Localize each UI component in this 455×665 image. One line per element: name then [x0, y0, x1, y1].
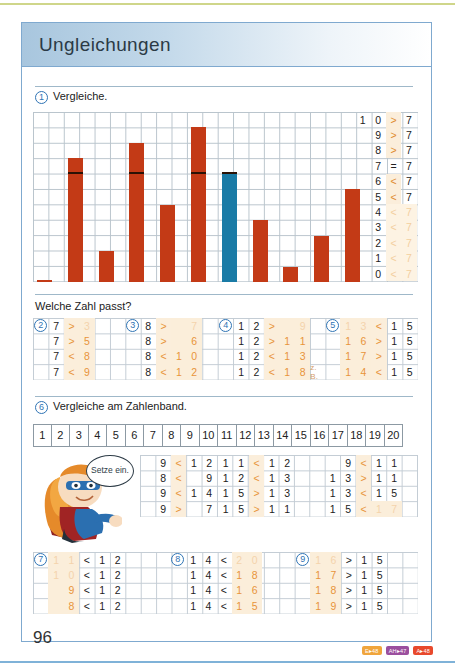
- equation-sign[interactable]: <: [171, 455, 186, 470]
- equation-sign[interactable]: <: [216, 583, 231, 598]
- answer-cell[interactable]: 1: [340, 349, 355, 364]
- equation-sign[interactable]: <: [371, 364, 386, 379]
- equation-sign[interactable]: <: [264, 364, 279, 379]
- answer-cell[interactable]: 1: [232, 598, 247, 613]
- answer-cell[interactable]: 1: [280, 333, 295, 348]
- answer-cell[interactable]: 6: [356, 333, 371, 348]
- comparison-sign[interactable]: <: [386, 174, 401, 189]
- answer-cell[interactable]: 8: [247, 567, 262, 582]
- answer-cell[interactable]: 1: [340, 318, 355, 333]
- answer-cell[interactable]: 1: [310, 583, 325, 598]
- equation-sign[interactable]: >: [341, 567, 356, 582]
- answer-cell[interactable]: 1: [310, 552, 325, 567]
- equation-sign[interactable]: >: [264, 318, 279, 333]
- equation-sign[interactable]: <: [64, 364, 79, 379]
- answer-cell[interactable]: 5: [247, 598, 262, 613]
- answer-cell[interactable]: 9: [326, 598, 341, 613]
- answer-cell[interactable]: 4: [356, 364, 371, 379]
- answer-cell[interactable]: 6: [187, 333, 202, 348]
- equation-sign[interactable]: <: [216, 598, 231, 613]
- comparison-sign[interactable]: >: [386, 112, 401, 127]
- equation-sign[interactable]: >: [371, 349, 386, 364]
- equation-sign[interactable]: <: [79, 552, 94, 567]
- answer-cell[interactable]: 1: [171, 364, 186, 379]
- answer-cell[interactable]: 1: [280, 349, 295, 364]
- equation-sign[interactable]: <: [371, 318, 386, 333]
- answer-cell[interactable]: 0: [64, 567, 79, 582]
- equation-sign[interactable]: <: [79, 583, 94, 598]
- equation-sign[interactable]: <: [156, 364, 171, 379]
- answer-cell[interactable]: 1: [280, 364, 295, 379]
- answer-cell[interactable]: 3: [79, 318, 94, 333]
- answer-cell[interactable]: 0: [187, 349, 202, 364]
- answer-cell[interactable]: [48, 583, 63, 598]
- answer-cell[interactable]: 1: [371, 501, 386, 516]
- equation-sign[interactable]: <: [264, 349, 279, 364]
- equation-sign[interactable]: <: [249, 455, 264, 470]
- equation-sign[interactable]: >: [171, 501, 186, 516]
- equation-sign[interactable]: >: [156, 318, 171, 333]
- equation-sign[interactable]: <: [79, 598, 94, 613]
- equation-sign[interactable]: <: [171, 470, 186, 485]
- equation-sign[interactable]: >: [64, 333, 79, 348]
- equation-sign[interactable]: >: [371, 333, 386, 348]
- answer-cell[interactable]: 1: [232, 567, 247, 582]
- answer-cell[interactable]: 2: [232, 552, 247, 567]
- answer-cell[interactable]: 7: [187, 318, 202, 333]
- equation-sign[interactable]: <: [171, 486, 186, 501]
- equation-sign[interactable]: >: [341, 598, 356, 613]
- answer-cell[interactable]: 1: [232, 583, 247, 598]
- comparison-sign[interactable]: <: [386, 189, 401, 204]
- answer-cell[interactable]: 1: [310, 567, 325, 582]
- answer-cell[interactable]: 5: [79, 333, 94, 348]
- answer-cell[interactable]: 8: [295, 364, 310, 379]
- answer-cell[interactable]: 1: [310, 598, 325, 613]
- answer-cell[interactable]: 2: [187, 364, 202, 379]
- answer-cell[interactable]: 1: [340, 333, 355, 348]
- answer-cell[interactable]: 7: [356, 349, 371, 364]
- answer-cell[interactable]: 1: [48, 567, 63, 582]
- comparison-sign[interactable]: <: [386, 235, 401, 250]
- equation-sign[interactable]: >: [264, 333, 279, 348]
- answer-cell[interactable]: 9: [295, 318, 310, 333]
- answer-cell[interactable]: 1: [340, 364, 355, 379]
- answer-cell[interactable]: 6: [326, 552, 341, 567]
- equation-sign[interactable]: >: [341, 552, 356, 567]
- answer-cell[interactable]: 9: [64, 583, 79, 598]
- equation-sign[interactable]: >: [156, 333, 171, 348]
- equation-sign[interactable]: >: [249, 486, 264, 501]
- comparison-sign[interactable]: <: [386, 204, 401, 219]
- answer-cell[interactable]: 8: [326, 583, 341, 598]
- comparison-sign[interactable]: <: [386, 266, 401, 281]
- comparison-sign[interactable]: >: [386, 143, 401, 158]
- comparison-sign[interactable]: =: [386, 158, 401, 173]
- equation-sign[interactable]: >: [64, 318, 79, 333]
- equation-sign[interactable]: <: [356, 455, 371, 470]
- equation-sign[interactable]: >: [356, 470, 371, 485]
- equation-sign[interactable]: <: [64, 349, 79, 364]
- equation-sign[interactable]: <: [356, 486, 371, 501]
- answer-cell[interactable]: 0: [247, 552, 262, 567]
- answer-cell[interactable]: 7: [326, 567, 341, 582]
- comparison-sign[interactable]: <: [386, 220, 401, 235]
- equation-sign[interactable]: <: [216, 567, 231, 582]
- answer-cell[interactable]: 6: [247, 583, 262, 598]
- equation-sign[interactable]: <: [216, 552, 231, 567]
- answer-cell[interactable]: 1: [64, 552, 79, 567]
- answer-cell[interactable]: 3: [356, 318, 371, 333]
- answer-cell[interactable]: [280, 318, 295, 333]
- answer-cell[interactable]: 8: [79, 349, 94, 364]
- answer-cell[interactable]: [48, 598, 63, 613]
- answer-cell[interactable]: 7: [387, 501, 402, 516]
- answer-cell[interactable]: 8: [64, 598, 79, 613]
- answer-cell[interactable]: [171, 318, 186, 333]
- answer-cell[interactable]: 1: [48, 552, 63, 567]
- equation-sign[interactable]: <: [156, 349, 171, 364]
- equation-sign[interactable]: >: [341, 583, 356, 598]
- comparison-sign[interactable]: >: [386, 127, 401, 142]
- equation-sign[interactable]: <: [356, 501, 371, 516]
- equation-sign[interactable]: >: [249, 501, 264, 516]
- equation-sign[interactable]: <: [249, 470, 264, 485]
- answer-cell[interactable]: 9: [79, 364, 94, 379]
- answer-cell[interactable]: 1: [171, 349, 186, 364]
